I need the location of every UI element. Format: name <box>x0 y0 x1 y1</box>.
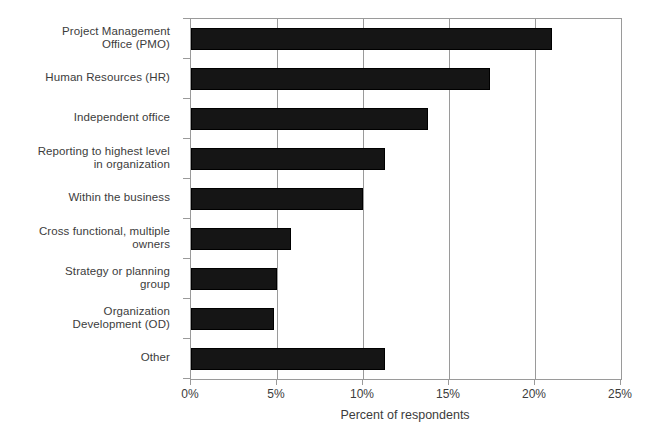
x-axis-tick-label: 0% <box>160 387 220 401</box>
category-label: Within the business <box>0 178 178 218</box>
bar <box>191 268 277 290</box>
bar-slot <box>191 179 621 219</box>
bar <box>191 188 363 210</box>
bar-chart: Project Management Office (PMO) Human Re… <box>0 0 664 441</box>
y-axis-tick <box>183 138 190 139</box>
category-label: Human Resources (HR) <box>0 58 178 98</box>
plot-area <box>190 18 622 380</box>
category-label: Other <box>0 338 178 378</box>
y-axis-tick <box>183 178 190 179</box>
x-axis-title: Percent of respondents <box>190 408 620 422</box>
x-axis-tick-label: 20% <box>504 387 564 401</box>
bar-slot <box>191 339 621 379</box>
bar <box>191 348 385 370</box>
x-axis-tick-label: 10% <box>332 387 392 401</box>
bar <box>191 228 291 250</box>
category-axis: Project Management Office (PMO) Human Re… <box>0 18 178 378</box>
y-axis-tick <box>183 18 190 19</box>
y-axis-tick <box>183 338 190 339</box>
y-axis-tick <box>183 298 190 299</box>
bar-slot <box>191 19 621 59</box>
category-label: Independent office <box>0 98 178 138</box>
bar <box>191 28 552 50</box>
bar <box>191 148 385 170</box>
y-axis-tick <box>183 98 190 99</box>
x-axis-tick-label: 25% <box>590 387 650 401</box>
category-label: Organization Development (OD) <box>0 298 178 338</box>
category-label: Reporting to highest level in organizati… <box>0 138 178 178</box>
y-axis-tick <box>183 378 190 379</box>
bar <box>191 308 274 330</box>
x-axis-tick <box>448 379 449 385</box>
bar <box>191 68 490 90</box>
bar <box>191 108 428 130</box>
x-axis-tick-label: 15% <box>418 387 478 401</box>
category-label: Cross functional, multiple owners <box>0 218 178 258</box>
x-axis-tick-label: 5% <box>246 387 306 401</box>
bar-slot <box>191 259 621 299</box>
bar-slot <box>191 59 621 99</box>
x-axis-tick <box>190 379 191 385</box>
category-label: Strategy or planning group <box>0 258 178 298</box>
x-axis-tick <box>620 379 621 385</box>
x-axis-tick <box>362 379 363 385</box>
y-axis-tick <box>183 258 190 259</box>
x-axis-tick <box>276 379 277 385</box>
y-axis-tick <box>183 58 190 59</box>
x-axis-tick <box>534 379 535 385</box>
bar-slot <box>191 299 621 339</box>
bar-slot <box>191 99 621 139</box>
category-label: Project Management Office (PMO) <box>0 18 178 58</box>
bar-slot <box>191 139 621 179</box>
bar-slot <box>191 219 621 259</box>
y-axis-tick <box>183 218 190 219</box>
